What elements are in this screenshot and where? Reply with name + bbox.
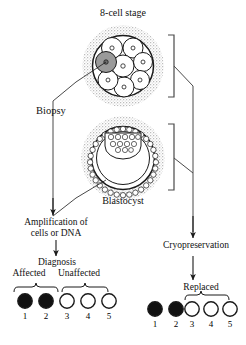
bracket-blastocyst <box>168 124 174 190</box>
diagnosis-group-braces <box>14 283 108 292</box>
embryo-number: 2 <box>44 311 49 321</box>
embryo-number: 3 <box>190 319 195 329</box>
label-blastocyst: Blastocyst <box>102 196 144 207</box>
right-flow-connectors <box>174 66 193 232</box>
inner-cell-mass <box>105 133 141 159</box>
embryo-dot-affected <box>169 302 183 316</box>
embryo-dot-unaffected <box>81 294 95 308</box>
label-amplification-line2: cells or DNA <box>31 229 82 239</box>
left-flow-connectors <box>53 82 76 216</box>
embryo-number: 4 <box>86 311 91 321</box>
embryo-number: 2 <box>174 319 179 329</box>
bracket-8cell <box>168 35 174 97</box>
embryo-dot-unaffected <box>60 294 74 308</box>
embryo-number: 5 <box>107 311 112 321</box>
brace-unaffected <box>62 283 108 292</box>
label-affected: Affected <box>12 269 45 279</box>
embryo-number: 1 <box>153 319 158 329</box>
embryo-dot-unaffected <box>102 294 116 308</box>
label-unaffected: Unaffected <box>58 269 100 279</box>
label-diagnosis: Diagnosis <box>38 258 76 268</box>
embryo-dot-unaffected <box>204 302 218 316</box>
embryo-number: 5 <box>228 319 233 329</box>
diagnosis-embryo-circles <box>18 294 116 308</box>
label-cryopreservation: Cryopreservation <box>163 241 229 251</box>
embryo-number: 3 <box>65 311 70 321</box>
diagram-canvas <box>0 0 246 345</box>
label-amplification-line1: Amplification of <box>24 218 88 228</box>
brace-affected <box>14 283 58 292</box>
replaced-embryo-circles <box>148 302 237 316</box>
blastocyst-embryo <box>76 116 165 200</box>
eight-cell-embryo <box>76 25 164 107</box>
label-biopsy: Biopsy <box>36 105 66 116</box>
blastomere <box>134 53 153 72</box>
embryo-number: 4 <box>209 319 214 329</box>
embryo-dot-affected <box>39 294 53 308</box>
embryo-number: 1 <box>23 311 28 321</box>
label-eight-cell-stage: 8-cell stage <box>100 8 146 19</box>
embryo-dot-unaffected <box>185 302 199 316</box>
embryo-dot-affected <box>18 294 32 308</box>
embryo-dot-affected <box>148 302 162 316</box>
pgd-flow-diagram: 8-cell stage Biopsy Blastocyst Amplifica… <box>0 0 246 345</box>
embryo-dot-unaffected <box>223 302 237 316</box>
label-replaced: Replaced <box>183 283 218 293</box>
